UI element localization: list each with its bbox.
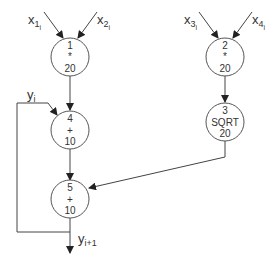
node-3: 3 SQRT 20 (206, 103, 244, 141)
edge-yi-to-node4 (17, 103, 57, 232)
node-2: 2 * 20 (206, 38, 244, 76)
node-3-cost: 20 (219, 128, 231, 139)
node-4-id: 4 (67, 113, 73, 124)
label-x3: x3i (184, 12, 198, 31)
node-1-id: 1 (67, 40, 73, 51)
node-2-op: * (223, 51, 227, 62)
node-5-cost: 10 (64, 205, 76, 216)
dataflow-diagram: 1 * 20 2 * 20 3 SQRT 20 4 + 10 5 + 10 x1… (0, 0, 276, 267)
node-5: 5 + 10 (51, 180, 89, 218)
node-4-op: + (67, 125, 73, 136)
node-3-id: 3 (222, 105, 228, 116)
node-1: 1 * 20 (51, 38, 89, 76)
node-2-id: 2 (222, 40, 228, 51)
node-4: 4 + 10 (51, 111, 89, 149)
node-1-cost: 20 (64, 63, 76, 74)
edge-x1-to-node1 (44, 12, 63, 38)
label-x1: x1i (28, 12, 42, 31)
node-5-op: + (67, 194, 73, 205)
edge-node3-to-node5 (89, 141, 225, 188)
node-2-cost: 20 (219, 63, 231, 74)
label-yi: yi (27, 87, 36, 104)
node-4-cost: 10 (64, 136, 76, 147)
edge-x3-to-node2 (199, 12, 218, 38)
edge-x4-to-node2 (233, 12, 252, 38)
node-3-op: SQRT (211, 117, 239, 128)
label-x2: x2i (97, 12, 111, 31)
node-1-op: * (68, 51, 72, 62)
node-5-id: 5 (67, 182, 73, 193)
label-yi-plus-1: yi+1 (78, 231, 97, 248)
edge-x2-to-node1 (78, 12, 97, 38)
label-x4: x4i (252, 12, 266, 31)
